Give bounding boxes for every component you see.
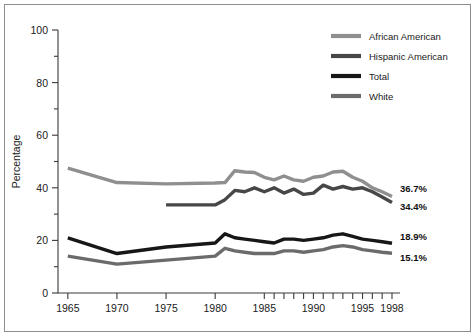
end-value-label-white: 15.1% bbox=[400, 252, 427, 263]
series-line-african-american bbox=[68, 168, 392, 196]
x-axis-tick-label: 1975 bbox=[154, 302, 178, 314]
x-axis-tick-label: 1995 bbox=[351, 302, 375, 314]
y-axis-tick-label: 100 bbox=[30, 24, 48, 36]
axis-lines bbox=[58, 30, 400, 293]
x-axis-tick-label: 1980 bbox=[203, 302, 227, 314]
legend-label-african-american: African American bbox=[369, 31, 441, 42]
series-line-hispanic-american bbox=[166, 185, 392, 205]
x-axis-tick-label: 1990 bbox=[302, 302, 326, 314]
chart-figure: 020406080100Percentage196519701975198019… bbox=[0, 0, 475, 336]
end-value-label-african-american: 36.7% bbox=[400, 183, 427, 194]
y-axis-tick-label: 40 bbox=[36, 182, 48, 194]
y-axis-tick-label: 20 bbox=[36, 234, 48, 246]
x-axis-tick-label: 1965 bbox=[56, 302, 80, 314]
legend-label-white: White bbox=[369, 91, 393, 102]
x-axis-tick-label: 1998 bbox=[380, 302, 404, 314]
y-axis-tick-label: 60 bbox=[36, 129, 48, 141]
end-value-label-total: 18.9% bbox=[400, 231, 427, 242]
y-axis-tick-label: 80 bbox=[36, 77, 48, 89]
line-chart: 020406080100Percentage196519701975198019… bbox=[0, 0, 475, 336]
y-axis-title: Percentage bbox=[10, 134, 22, 188]
legend-label-total: Total bbox=[369, 71, 389, 82]
x-axis-tick-label: 1970 bbox=[105, 302, 129, 314]
legend-label-hispanic-american: Hispanic American bbox=[369, 51, 448, 62]
end-value-label-hispanic-american: 34.4% bbox=[400, 201, 427, 212]
plot-area: 020406080100Percentage196519701975198019… bbox=[0, 0, 475, 336]
x-axis-tick-label: 1985 bbox=[253, 302, 277, 314]
y-axis-tick-label: 0 bbox=[42, 287, 48, 299]
